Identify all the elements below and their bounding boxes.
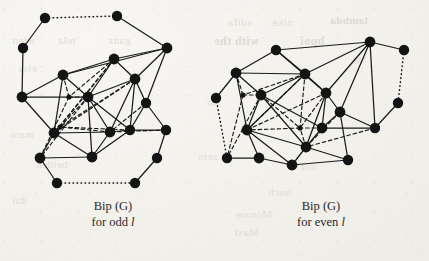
graph-vertex xyxy=(287,160,298,171)
graph-vertex xyxy=(152,153,162,163)
solid-edge xyxy=(236,50,276,73)
caption-right-line2-symbol: l xyxy=(341,215,344,229)
graph-vertex xyxy=(301,142,312,153)
graph-vertex xyxy=(300,69,311,80)
solid-edge xyxy=(54,132,110,133)
solid-edge xyxy=(306,147,348,160)
graph-vertex xyxy=(125,125,135,135)
graph-vertex-small xyxy=(297,125,302,130)
graph-vertex xyxy=(52,178,62,188)
graph-vertex xyxy=(365,37,376,48)
caption-left-line2: for odd l xyxy=(48,214,178,230)
dashed-edge xyxy=(247,128,300,130)
caption-right: Bip (G) for even l xyxy=(256,198,386,230)
solid-edge xyxy=(22,48,23,97)
solid-edge xyxy=(292,160,348,165)
solid-edge xyxy=(247,130,306,147)
caption-right-line2: for even l xyxy=(256,214,386,230)
graph-vertex xyxy=(254,153,265,164)
graph-vertex xyxy=(109,54,120,65)
dotted-edge xyxy=(216,98,227,158)
caption-left-line1: Bip (G) xyxy=(48,198,178,214)
graph-vertex xyxy=(317,123,328,134)
graph-vertex-small xyxy=(66,94,71,99)
dashed-edge xyxy=(306,128,375,147)
graph-vertex xyxy=(112,11,122,21)
solid-edge xyxy=(88,97,92,157)
graph-vertex-small xyxy=(57,124,62,129)
solid-edge xyxy=(23,18,45,48)
graph-vertex xyxy=(162,43,173,54)
graph-vertex xyxy=(335,107,346,118)
graph-vertex xyxy=(161,125,171,135)
solid-edge xyxy=(54,133,92,157)
graph-vertex xyxy=(321,88,332,99)
solid-edge xyxy=(370,42,375,128)
graph-vertex xyxy=(370,123,380,133)
figure-page: sdifanikelambdawith thebpoiwientelaganzs… xyxy=(0,0,429,261)
solid-edge xyxy=(326,42,370,93)
caption-left-line2-symbol: l xyxy=(131,215,134,229)
solid-edge xyxy=(340,112,375,128)
graph-vertex xyxy=(343,155,353,165)
graph-vertex xyxy=(242,125,253,136)
graph-vertex xyxy=(35,153,46,164)
solid-edge xyxy=(22,75,63,97)
solid-edge xyxy=(88,97,110,132)
solid-edge xyxy=(236,73,305,74)
graph-vertex xyxy=(399,45,409,55)
graph-vertex xyxy=(40,13,50,23)
solid-edge xyxy=(40,157,92,158)
graph-vertex xyxy=(256,90,267,101)
graph-vertex xyxy=(83,92,94,103)
graph-vertex-small xyxy=(240,92,245,97)
dashed-edge xyxy=(227,95,243,158)
graph-vertex xyxy=(17,92,28,103)
graph-vertex xyxy=(58,70,69,81)
graph-vertex xyxy=(141,98,151,108)
graph-vertex xyxy=(87,152,98,163)
solid-edge xyxy=(261,74,305,95)
caption-right-line2-prefix: for even xyxy=(297,215,341,229)
caption-right-line1: Bip (G) xyxy=(256,198,386,214)
graph-vertex xyxy=(271,45,281,55)
dashed-edge xyxy=(243,74,305,95)
solid-edge xyxy=(340,42,370,112)
caption-left-line2-prefix: for odd xyxy=(91,215,131,229)
caption-left: Bip (G) for odd l xyxy=(48,198,178,230)
solid-edge xyxy=(117,16,167,48)
graph-vertex xyxy=(49,128,60,139)
graph-vertex xyxy=(231,68,242,79)
graph-vertex xyxy=(211,93,221,103)
graph-vertex xyxy=(393,98,403,108)
solid-edge xyxy=(261,95,306,147)
solid-edge xyxy=(22,97,54,133)
graph-vertex xyxy=(130,178,140,188)
dashed-edge xyxy=(300,74,305,128)
solid-edge xyxy=(146,48,167,103)
solid-edge xyxy=(63,59,114,75)
graph-nodes-group xyxy=(17,11,410,188)
graph-vertex xyxy=(18,43,28,53)
graph-vertex xyxy=(105,127,116,138)
dotted-edge xyxy=(398,50,404,103)
dotted-edge xyxy=(45,16,117,18)
graph-vertex xyxy=(130,74,141,85)
graph-vertex xyxy=(222,153,232,163)
